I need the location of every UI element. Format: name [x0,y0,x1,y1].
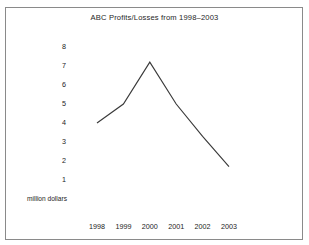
y-tick-label-4: 4 [52,119,66,127]
plot-area [0,0,309,245]
y-tick-label-7: 7 [52,62,66,70]
x-tick-label-2000: 2000 [137,223,163,231]
x-tick-label-1999: 1999 [110,223,136,231]
data-series-line [97,62,229,167]
y-axis-unit-caption: million dollars [27,195,67,203]
y-tick-label-8: 8 [52,43,66,51]
x-tick-label-2001: 2001 [163,223,189,231]
x-tick-label-2003: 2003 [216,223,242,231]
x-tick-label-2002: 2002 [190,223,216,231]
line-plot-svg [0,0,309,245]
y-tick-label-3: 3 [52,138,66,146]
y-tick-label-5: 5 [52,100,66,108]
y-tick-label-1: 1 [52,176,66,184]
y-tick-label-6: 6 [52,81,66,89]
x-tick-label-1998: 1998 [84,223,110,231]
y-tick-label-2: 2 [52,157,66,165]
chart-figure: ABC Profits/Losses from 1998–2003 876543… [0,0,309,245]
